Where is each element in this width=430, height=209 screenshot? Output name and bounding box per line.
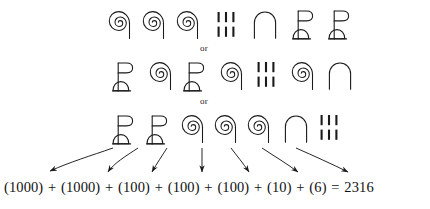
arrow-to-term-3 bbox=[152, 148, 167, 172]
formula-plus-6: + bbox=[295, 179, 305, 195]
arrow-to-term-1 bbox=[50, 148, 113, 171]
strokes-glyph bbox=[319, 113, 342, 143]
arrow-to-term-5 bbox=[231, 148, 249, 172]
sum-formula: (1000) + (1000) + (100) + (100) + (100) … bbox=[4, 179, 428, 196]
formula-term-3: (100) bbox=[118, 179, 150, 195]
strokes-glyph bbox=[216, 10, 239, 40]
coil-glyph bbox=[247, 114, 273, 144]
glyph-row-1 bbox=[108, 8, 354, 40]
coil-glyph bbox=[149, 61, 175, 91]
coil-glyph bbox=[291, 61, 317, 91]
coil-glyph bbox=[108, 10, 134, 40]
lotus-glyph bbox=[146, 113, 172, 145]
arrow-to-term-2 bbox=[108, 148, 138, 172]
arch-glyph bbox=[327, 61, 353, 91]
lotus-glyph bbox=[183, 60, 209, 92]
arrow-to-term-6 bbox=[262, 148, 298, 172]
formula-result: 2316 bbox=[344, 179, 373, 195]
formula-term-1: (1000) bbox=[4, 179, 43, 195]
formula-plus-4: + bbox=[203, 179, 213, 195]
formula-term-7: (6) bbox=[309, 179, 326, 195]
lotus-glyph bbox=[328, 8, 354, 40]
formula-plus-3: + bbox=[154, 179, 164, 195]
glyph-row-2 bbox=[112, 60, 353, 92]
arrow-to-term-7 bbox=[296, 148, 348, 172]
coil-glyph bbox=[181, 114, 207, 144]
egyptian-numeral-figure: or bbox=[0, 0, 430, 209]
arch-glyph bbox=[283, 114, 309, 144]
formula-term-5: (100) bbox=[217, 179, 249, 195]
glyph-row-3 bbox=[112, 113, 342, 145]
coil-glyph bbox=[142, 10, 168, 40]
formula-term-6: (10) bbox=[267, 179, 292, 195]
lotus-glyph bbox=[112, 60, 138, 92]
formula-term-2: (1000) bbox=[61, 179, 100, 195]
lotus-glyph bbox=[292, 8, 318, 40]
lotus-glyph bbox=[112, 113, 138, 145]
strokes-glyph bbox=[256, 60, 279, 90]
arch-glyph bbox=[252, 10, 278, 40]
coil-glyph bbox=[220, 61, 246, 91]
formula-plus-5: + bbox=[253, 179, 263, 195]
coil-glyph bbox=[214, 114, 240, 144]
coil-glyph bbox=[176, 10, 202, 40]
formula-equals: = bbox=[330, 179, 340, 195]
or-connector-2: or bbox=[200, 96, 208, 106]
formula-term-4: (100) bbox=[168, 179, 200, 195]
formula-plus-2: + bbox=[104, 179, 114, 195]
formula-plus-1: + bbox=[47, 179, 57, 195]
or-connector-1: or bbox=[200, 43, 208, 53]
